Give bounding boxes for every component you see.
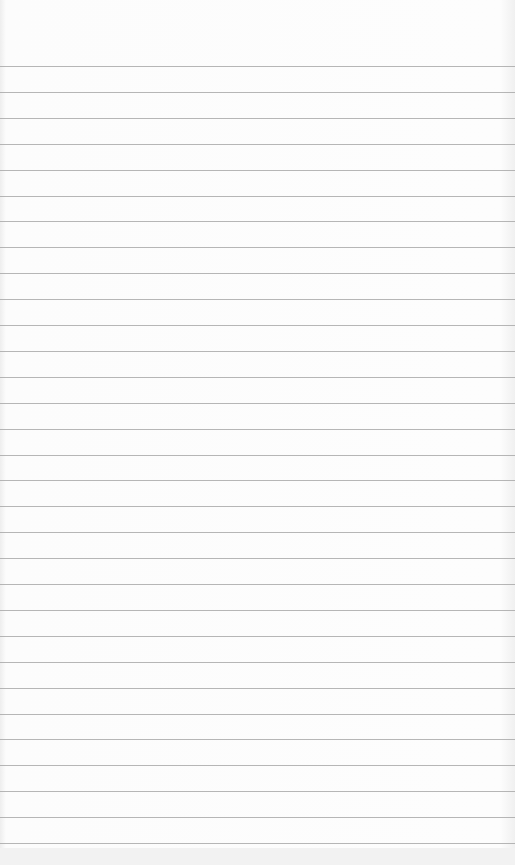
ruled-line [0, 455, 515, 456]
paper-bottom-edge [0, 848, 515, 865]
ruled-line [0, 714, 515, 715]
ruled-line [0, 558, 515, 559]
ruled-line [0, 765, 515, 766]
ruled-line [0, 610, 515, 611]
ruled-line [0, 247, 515, 248]
ruled-line [0, 273, 515, 274]
ruled-line [0, 66, 515, 67]
ruled-line [0, 221, 515, 222]
ruled-line [0, 843, 515, 844]
ruled-line [0, 299, 515, 300]
ruled-line [0, 791, 515, 792]
ruled-line [0, 739, 515, 740]
ruled-line [0, 584, 515, 585]
ruled-line [0, 636, 515, 637]
ruled-line [0, 403, 515, 404]
ruled-line [0, 118, 515, 119]
ruled-line [0, 92, 515, 93]
ruled-line [0, 662, 515, 663]
ruled-line [0, 144, 515, 145]
ruled-line [0, 688, 515, 689]
ruled-line [0, 351, 515, 352]
lined-paper [0, 0, 515, 865]
ruled-line [0, 170, 515, 171]
ruled-line [0, 506, 515, 507]
ruled-line [0, 817, 515, 818]
ruled-line [0, 377, 515, 378]
ruled-line [0, 480, 515, 481]
ruled-line [0, 429, 515, 430]
ruled-line [0, 196, 515, 197]
ruled-line [0, 532, 515, 533]
ruled-line [0, 325, 515, 326]
